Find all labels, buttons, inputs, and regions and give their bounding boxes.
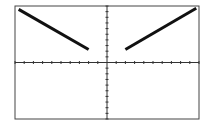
graph-screen	[0, 0, 208, 128]
